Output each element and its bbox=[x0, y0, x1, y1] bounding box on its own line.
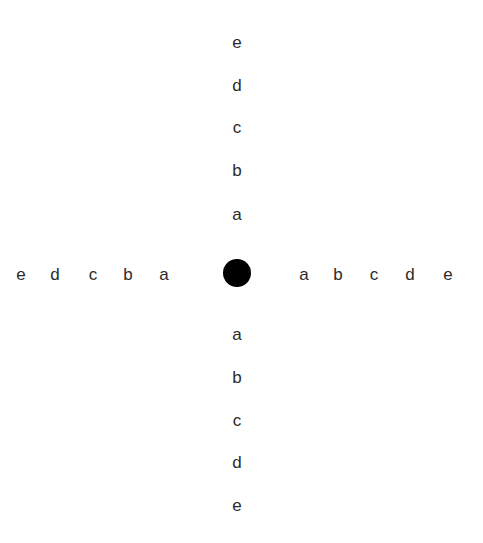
letter-label-right-a: a bbox=[292, 264, 316, 284]
letter-label-down-d: d bbox=[225, 452, 249, 472]
letter-label-left-d: d bbox=[43, 264, 67, 284]
letter-label-right-d: d bbox=[398, 264, 422, 284]
letter-label-right-e: e bbox=[436, 264, 460, 284]
center-dot-marker bbox=[223, 259, 251, 287]
letter-label-left-b: b bbox=[116, 264, 140, 284]
letter-label-up-e: e bbox=[225, 32, 249, 52]
letter-label-left-a: a bbox=[152, 264, 176, 284]
letter-label-right-c: c bbox=[362, 264, 386, 284]
letter-label-left-e: e bbox=[9, 264, 33, 284]
letter-label-down-e: e bbox=[225, 495, 249, 515]
letter-label-up-a: a bbox=[225, 204, 249, 224]
letter-label-down-c: c bbox=[225, 410, 249, 430]
diagram-canvas: abcdeabcdeabcdeabcde bbox=[0, 0, 483, 543]
letter-label-down-a: a bbox=[225, 324, 249, 344]
letter-label-up-d: d bbox=[225, 75, 249, 95]
letter-label-left-c: c bbox=[81, 264, 105, 284]
letter-label-up-b: b bbox=[225, 160, 249, 180]
letter-label-down-b: b bbox=[225, 367, 249, 387]
letter-label-right-b: b bbox=[326, 264, 350, 284]
letter-label-up-c: c bbox=[225, 117, 249, 137]
